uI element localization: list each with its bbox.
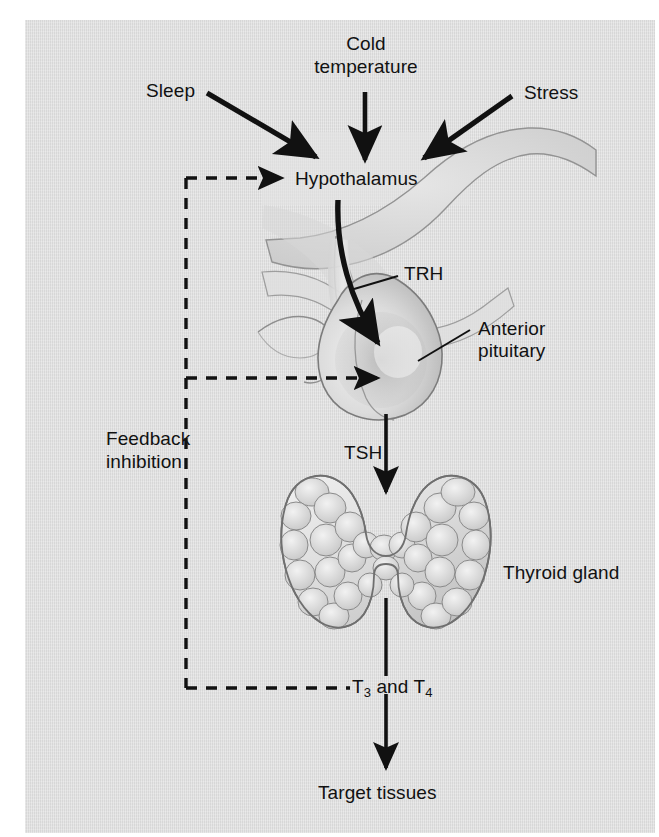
label-cold-temperature-line1: Cold bbox=[296, 33, 436, 55]
sleep-arrow bbox=[207, 93, 316, 157]
label-t4-subscript: 4 bbox=[425, 685, 432, 700]
label-anterior-pituitary-line1: Anterior bbox=[478, 318, 545, 340]
figure-root: Sleep Cold temperature Stress Hypothalam… bbox=[0, 0, 659, 837]
label-t3-prefix: T bbox=[352, 676, 364, 697]
label-tsh: TSH bbox=[344, 442, 382, 464]
label-target-tissues: Target tissues bbox=[318, 782, 437, 804]
label-thyroid-gland: Thyroid gland bbox=[503, 562, 619, 584]
label-cold-temperature-line2: temperature bbox=[296, 56, 436, 78]
label-feedback-inhibition-line2: inhibition bbox=[106, 451, 182, 473]
label-trh: TRH bbox=[404, 263, 443, 285]
label-hypothalamus: Hypothalamus bbox=[295, 168, 418, 190]
label-and-t4: and T bbox=[371, 676, 425, 697]
diagram-artwork bbox=[0, 0, 659, 837]
label-t3-and-t4: T3 and T4 bbox=[352, 676, 433, 704]
label-stress: Stress bbox=[524, 82, 578, 104]
label-sleep: Sleep bbox=[146, 80, 195, 102]
label-feedback-inhibition-line1: Feedback bbox=[106, 428, 190, 450]
label-anterior-pituitary-line2: pituitary bbox=[478, 340, 545, 362]
label-t3-subscript: 3 bbox=[364, 685, 371, 700]
